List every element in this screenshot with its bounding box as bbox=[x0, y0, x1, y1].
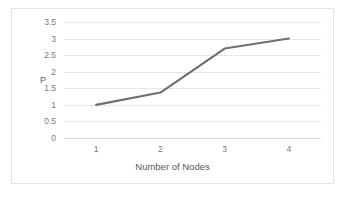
y-axis-tick-label: 1.5 bbox=[16, 84, 56, 93]
x-axis-tick-label: 1 bbox=[94, 145, 99, 154]
plot-area: 00.511.522.533.5 1234 bbox=[64, 22, 321, 138]
y-axis-tick-label: 3.5 bbox=[16, 18, 56, 27]
series-polyline bbox=[96, 39, 289, 105]
y-axis-tick-label: 1 bbox=[16, 101, 56, 110]
y-axis-tick-label: 2 bbox=[16, 67, 56, 76]
y-axis-tick-label: 0.5 bbox=[16, 117, 56, 126]
y-axis-tick-label: 3 bbox=[16, 34, 56, 43]
x-axis-title: Number of Nodes bbox=[12, 162, 333, 172]
y-axis-tick-label: 2.5 bbox=[16, 51, 56, 60]
x-axis-tick-label: 2 bbox=[158, 145, 163, 154]
x-axis-tick-label: 3 bbox=[222, 145, 227, 154]
y-axis-tick-label: 0 bbox=[16, 134, 56, 143]
series-line-p bbox=[64, 22, 321, 138]
chart-container: P 00.511.522.533.5 1234 Number of Nodes bbox=[11, 8, 334, 184]
gridline bbox=[64, 138, 321, 139]
x-axis-tick-label: 4 bbox=[287, 145, 292, 154]
